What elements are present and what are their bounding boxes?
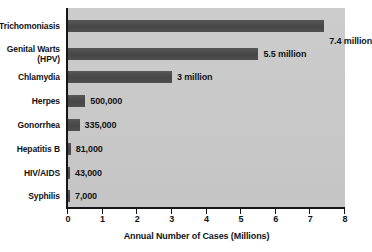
bar [68, 143, 71, 155]
bar [68, 190, 70, 202]
bar [68, 167, 70, 179]
bar [68, 95, 85, 107]
category-label: Hepatitis B [0, 144, 60, 154]
x-axis-tick-label: 2 [127, 214, 147, 224]
x-axis-tick-label: 8 [335, 214, 355, 224]
bar [68, 48, 258, 60]
bar [68, 119, 80, 131]
value-label: 3 million [177, 72, 213, 82]
value-label: 5.5 million [263, 49, 306, 59]
category-label: Herpes [0, 96, 60, 106]
value-label: 43,000 [75, 168, 102, 178]
category-label: Syphilis [0, 191, 60, 201]
category-label: Gonorrhea [0, 120, 60, 130]
x-axis-tick-label: 6 [266, 214, 286, 224]
x-axis-tick-label: 1 [93, 214, 113, 224]
x-axis-tick-label: 7 [300, 214, 320, 224]
value-label: 500,000 [90, 96, 122, 106]
x-axis-tick-label: 4 [197, 214, 217, 224]
x-axis-tick-label: 3 [162, 214, 182, 224]
x-axis-tick-label: 5 [231, 214, 251, 224]
value-label: 7.4 million [329, 36, 372, 46]
value-label: 335,000 [85, 120, 117, 130]
bar [68, 20, 324, 32]
category-label: HIV/AIDS [0, 168, 60, 178]
category-label: Trichomoniasis [0, 21, 60, 31]
category-label: Chlamydia [0, 72, 60, 82]
x-axis-title: Annual Number of Cases (Millions) [0, 231, 357, 241]
category-label: Genital Warts (HPV) [0, 44, 60, 64]
value-label: 7,000 [75, 191, 97, 201]
bar [68, 71, 172, 83]
x-axis-tick-label: 0 [58, 214, 78, 224]
value-label: 81,000 [76, 144, 103, 154]
